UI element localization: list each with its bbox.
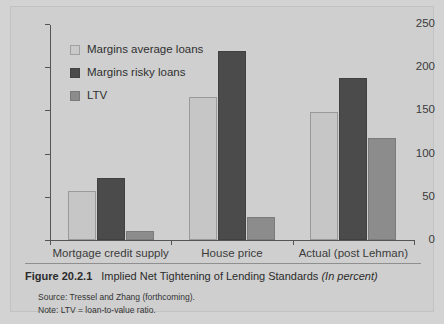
bar-1-1 (68, 191, 96, 240)
legend-item: LTV (70, 87, 203, 105)
bar-1-3 (126, 231, 154, 241)
chart-plot-area: 050100150200250 Mortgage credit supplyHo… (11, 7, 435, 255)
caption-divider (25, 263, 421, 264)
legend-item-label: LTV (87, 90, 107, 102)
figure-title: Implied Net Tightening of Lending Standa… (101, 270, 318, 282)
definition-note: Note: LTV = loan-to-value ratio. (38, 304, 428, 317)
x-axis-line (50, 240, 414, 241)
source-note: Source: Tressel and Zhang (forthcoming). (38, 291, 428, 304)
bar-2-1 (189, 97, 217, 240)
x-axis-label: Actual (post Lehman) (293, 247, 414, 260)
legend-item-label: Margins risky loans (87, 67, 185, 79)
x-axis-tick (50, 240, 51, 245)
x-axis-label: House price (171, 247, 292, 260)
legend-swatch-icon (70, 68, 80, 78)
bar-2-2 (218, 51, 246, 240)
bar-3-3 (368, 138, 396, 240)
figure-panel: 050100150200250 Mortgage credit supplyHo… (10, 6, 434, 312)
legend-swatch-icon (70, 91, 80, 101)
bar-1-2 (97, 178, 125, 240)
x-axis-tick (414, 240, 415, 245)
x-axis-tick (293, 240, 294, 245)
figure-caption: Figure 20.2.1Implied Net Tightening of L… (25, 270, 425, 284)
x-axis-label: Mortgage credit supply (50, 247, 171, 260)
bar-2-3 (247, 217, 275, 240)
legend-item: Margins average loans (70, 41, 203, 59)
bar-3-1 (310, 112, 338, 240)
legend-item-label: Margins average loans (87, 44, 203, 56)
figure-notes: Source: Tressel and Zhang (forthcoming).… (38, 291, 428, 317)
figure-number: Figure 20.2.1 (25, 270, 92, 282)
x-axis-tick (171, 240, 172, 245)
legend-item: Margins risky loans (70, 64, 203, 82)
figure-units: (In percent) (321, 270, 377, 282)
figure-container: 050100150200250 Mortgage credit supplyHo… (0, 0, 444, 324)
bar-3-2 (339, 78, 367, 240)
chart-legend: Margins average loansMargins risky loans… (70, 41, 203, 110)
legend-swatch-icon (70, 45, 80, 55)
